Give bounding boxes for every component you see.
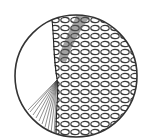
circle-interior	[0, 0, 152, 140]
string-art-circle-illustration	[0, 0, 152, 140]
